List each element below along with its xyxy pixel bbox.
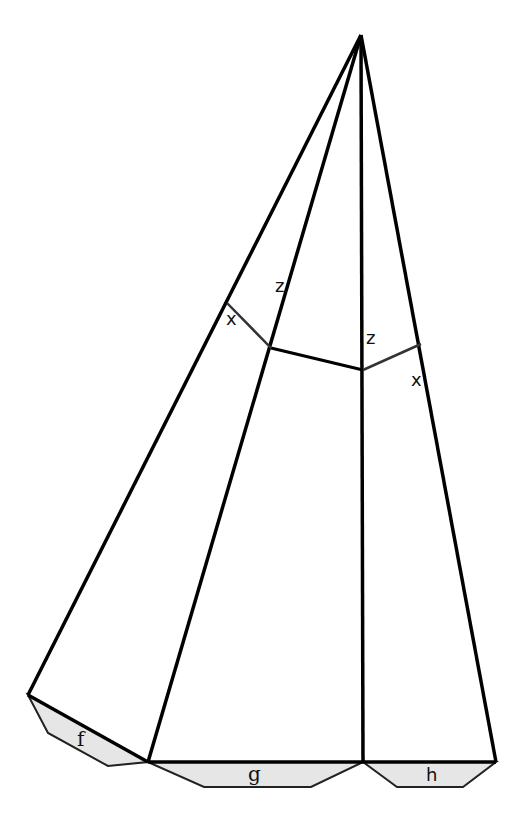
pyramid-net-diagram: z z x x f g h: [0, 0, 531, 825]
label-tab-h: h: [426, 764, 437, 785]
label-tab-g: g: [248, 762, 261, 786]
label-z-left: z: [275, 275, 284, 296]
net-outline: [28, 35, 496, 762]
label-x-right: x: [411, 369, 422, 390]
label-z-right: z: [366, 327, 375, 348]
label-x-left: x: [226, 308, 237, 329]
